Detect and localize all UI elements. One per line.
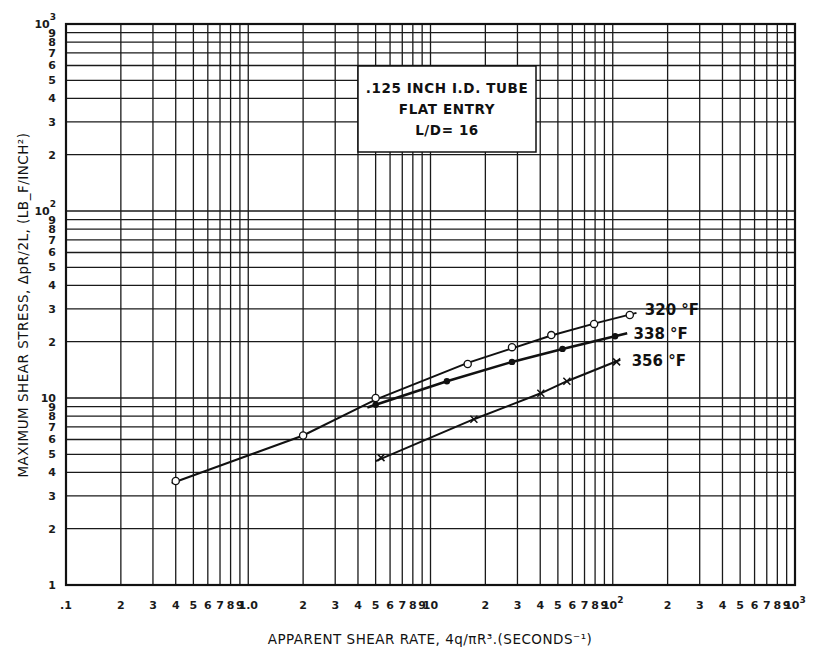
x-axis-title: APPARENT SHEAR RATE, 4q/πR³.(SECONDS⁻¹) [268, 631, 593, 647]
x-tick-label: 103 [784, 595, 806, 612]
open-circle-marker [548, 331, 555, 338]
y-tick-label: 3 [48, 303, 56, 316]
x-tick-label: 6 [751, 599, 759, 612]
series-layer: 320 °F338 °F356 °F [172, 301, 699, 484]
title-line-2: FLAT ENTRY [399, 101, 495, 117]
x-axis-tick-labels: .1234567891.0234567891023456789102234567… [60, 595, 806, 612]
x-tick-label: 4 [354, 599, 362, 612]
y-tick-label: 6 [48, 246, 56, 259]
y-tick-label: 4 [48, 279, 56, 292]
x-tick-label: 2 [482, 599, 490, 612]
filled-circle-marker [444, 378, 450, 384]
x-tick-label: 8 [591, 599, 599, 612]
x-tick-label: 7 [581, 599, 589, 612]
y-axis-title: MAXIMUM SHEAR STRESS, ΔpR/2L, (LB_F/INCH… [15, 132, 31, 477]
x-tick-label: 7 [763, 599, 771, 612]
title-box: .125 INCH I.D. TUBE FLAT ENTRY L/D= 16 [358, 66, 536, 152]
y-tick-label: 4 [48, 92, 56, 105]
series-line [367, 333, 627, 407]
open-circle-marker [372, 394, 379, 401]
y-tick-label: 5 [48, 261, 56, 274]
x-tick-label: 4 [536, 599, 544, 612]
y-tick-label: 1 [48, 579, 56, 592]
x-tick-label: 7 [216, 599, 224, 612]
y-tick-label: 5 [48, 448, 56, 461]
x-tick-label: .1 [60, 599, 72, 612]
y-tick-label: 2 [48, 149, 56, 162]
y-tick-label: 10 [41, 392, 57, 405]
series-320F: 320 °F [172, 301, 699, 484]
x-tick-label: 3 [696, 599, 704, 612]
x-tick-label: 5 [736, 599, 744, 612]
y-tick-label: 4 [48, 466, 56, 479]
y-axis-tick-labels: 123456789102345678910223456789103 [34, 12, 56, 592]
filled-circle-marker [612, 333, 618, 339]
x-tick-label: 7 [398, 599, 406, 612]
filled-circle-marker [372, 402, 378, 408]
x-tick-label: 8 [227, 599, 235, 612]
x-tick-label: 2 [117, 599, 125, 612]
x-tick-label: 5 [372, 599, 380, 612]
x-tick-label: 6 [386, 599, 394, 612]
y-tick-label: 6 [48, 433, 56, 446]
open-circle-marker [626, 311, 633, 318]
open-circle-marker [300, 432, 307, 439]
x-tick-label: 5 [554, 599, 562, 612]
x-tick-label: 3 [331, 599, 339, 612]
x-tick-label: 2 [299, 599, 307, 612]
filled-circle-marker [509, 359, 515, 365]
open-circle-marker [464, 360, 471, 367]
series-label: 338 °F [634, 325, 688, 343]
x-tick-label: 8 [409, 599, 417, 612]
y-tick-label: 3 [48, 490, 56, 503]
y-tick-label: 5 [48, 74, 56, 87]
y-tick-label: 3 [48, 116, 56, 129]
x-tick-label: 4 [719, 599, 727, 612]
log-log-chart: .125 INCH I.D. TUBE FLAT ENTRY L/D= 16 3… [0, 0, 822, 664]
x-tick-label: 3 [514, 599, 522, 612]
open-circle-marker [590, 320, 597, 327]
title-line-1: .125 INCH I.D. TUBE [366, 80, 529, 96]
series-label: 320 °F [645, 301, 699, 319]
x-tick-label: 8 [774, 599, 782, 612]
x-tick-label: 6 [204, 599, 212, 612]
open-circle-marker [508, 344, 515, 351]
x-tick-label: 6 [568, 599, 576, 612]
y-tick-label: 2 [48, 336, 56, 349]
x-tick-label: 3 [149, 599, 157, 612]
x-tick-label: 5 [190, 599, 198, 612]
x-tick-label: 1.0 [239, 599, 259, 612]
filled-circle-marker [559, 346, 565, 352]
title-line-3: L/D= 16 [415, 122, 479, 138]
x-tick-label: 4 [172, 599, 180, 612]
y-tick-label: 2 [48, 523, 56, 536]
y-tick-label: 6 [48, 59, 56, 72]
open-circle-marker [172, 477, 179, 484]
series-label: 356 °F [632, 352, 686, 370]
x-tick-label: 102 [602, 595, 624, 612]
x-tick-label: 2 [664, 599, 672, 612]
x-tick-label: 10 [423, 599, 439, 612]
